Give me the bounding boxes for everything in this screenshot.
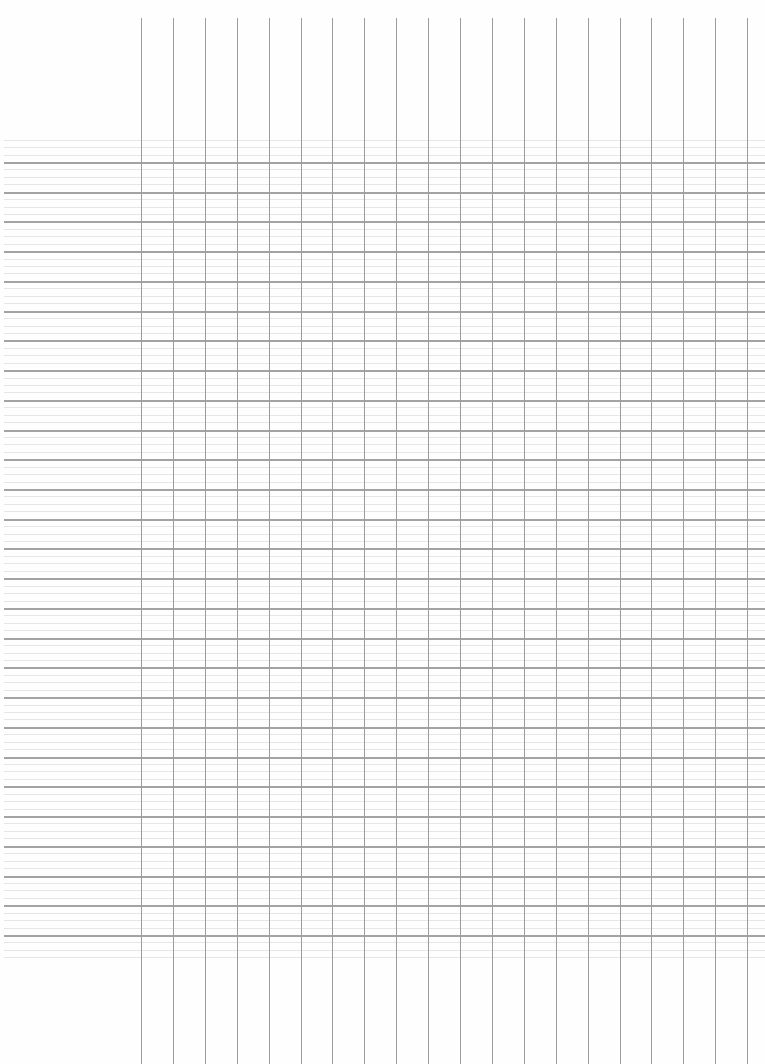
column-divider-line xyxy=(332,18,333,1064)
column-divider-line xyxy=(141,18,142,1064)
column-divider-line xyxy=(428,18,429,1064)
column-divider-line xyxy=(492,18,493,1064)
column-divider-line xyxy=(301,18,302,1064)
column-divider-line xyxy=(651,18,652,1064)
column-divider-line xyxy=(620,18,621,1064)
column-divider-line xyxy=(364,18,365,1064)
column-divider-line xyxy=(237,18,238,1064)
column-divider-line xyxy=(747,18,748,1064)
column-divider-line xyxy=(588,18,589,1064)
column-divider-line xyxy=(269,18,270,1064)
column-divider-line xyxy=(396,18,397,1064)
column-divider-line xyxy=(173,18,174,1064)
column-divider-line xyxy=(556,18,557,1064)
column-divider-line xyxy=(715,18,716,1064)
column-divider-line xyxy=(683,18,684,1064)
column-divider-line xyxy=(524,18,525,1064)
column-divider-line xyxy=(460,18,461,1064)
column-divider-line xyxy=(205,18,206,1064)
ruled-grid-sheet xyxy=(0,0,765,1064)
